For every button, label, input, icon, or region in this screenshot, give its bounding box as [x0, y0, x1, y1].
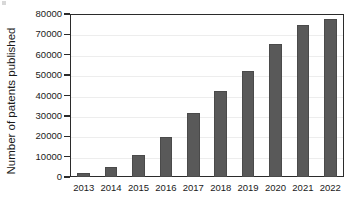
bar	[187, 113, 200, 177]
x-axis-tick-label: 2015	[125, 182, 152, 193]
bar-chart: Number of patents published 010000200003…	[0, 0, 354, 210]
bar-series	[70, 14, 344, 177]
x-axis-tick-label: 2022	[317, 182, 344, 193]
y-axis-tick-label: 60000	[14, 50, 62, 60]
bar	[324, 19, 337, 177]
bar	[269, 44, 282, 177]
x-axis-tick-label: 2017	[180, 182, 207, 193]
y-axis-tick-label: 10000	[14, 152, 62, 162]
bar	[77, 173, 90, 177]
bar	[105, 167, 118, 177]
image-artifact-speck	[2, 1, 6, 5]
y-axis-tick-label: 30000	[14, 111, 62, 121]
x-axis-tick-label: 2021	[289, 182, 316, 193]
x-axis-tick-label: 2013	[70, 182, 97, 193]
y-axis-tick-label: 70000	[14, 29, 62, 39]
bar	[160, 137, 173, 177]
x-axis-tick-label: 2020	[262, 182, 289, 193]
bar	[132, 155, 145, 177]
bar	[242, 71, 255, 177]
y-axis-tick-label: 0	[14, 172, 62, 182]
y-axis-tick-label: 40000	[14, 91, 62, 101]
x-axis-tick-label: 2019	[234, 182, 261, 193]
bar	[214, 91, 227, 177]
x-axis-tick-label: 2014	[97, 182, 124, 193]
y-axis-tick-label: 20000	[14, 131, 62, 141]
x-axis-tick-label: 2018	[207, 182, 234, 193]
y-axis-tick-label: 80000	[14, 9, 62, 19]
y-axis-tick-label: 50000	[14, 70, 62, 80]
x-axis-tick-label: 2016	[152, 182, 179, 193]
bar	[297, 25, 310, 177]
